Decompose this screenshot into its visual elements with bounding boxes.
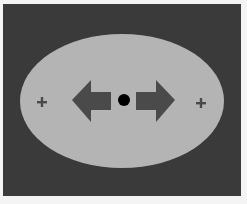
center-dot	[118, 94, 130, 106]
stretch-diagram	[0, 0, 247, 204]
